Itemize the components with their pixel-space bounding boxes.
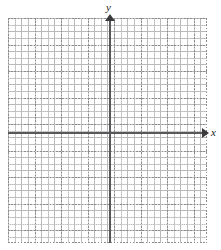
major-gridlines: [8, 18, 207, 243]
plot-area: [8, 18, 207, 243]
x-axis-arrow-icon: [202, 128, 209, 138]
y-axis-line: [109, 20, 111, 243]
x-axis-line: [8, 132, 204, 134]
y-axis-label: y: [106, 2, 111, 13]
y-axis-arrow-icon: [105, 14, 115, 21]
x-axis-label: x: [211, 127, 216, 138]
coordinate-grid-figure: x y: [0, 0, 221, 250]
